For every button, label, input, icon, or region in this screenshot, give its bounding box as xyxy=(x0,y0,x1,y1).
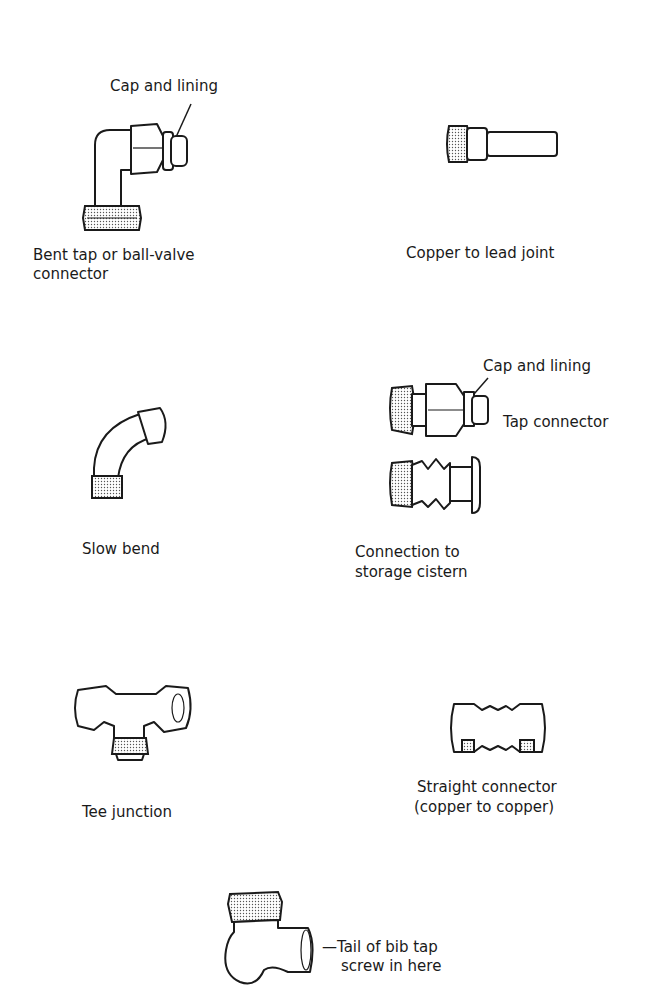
label-tap-connector: Tap connector xyxy=(503,413,608,432)
label-bent-tap-line1: Bent tap or ball-valve xyxy=(33,246,195,265)
label-bib-tap-line1: —Tail of bib tap xyxy=(322,938,438,957)
tap-connector-illustration xyxy=(388,378,498,448)
label-cistern-line2: storage cistern xyxy=(355,563,468,582)
copper-to-lead-joint-illustration xyxy=(445,122,560,167)
label-straight-line2: (copper to copper) xyxy=(414,798,554,817)
callout-cap-and-lining-2: Cap and lining xyxy=(483,357,591,376)
callout-cap-and-lining-1: Cap and lining xyxy=(110,77,218,96)
label-bent-tap-line2: connector xyxy=(33,265,108,284)
storage-cistern-connection-illustration xyxy=(388,455,488,515)
label-bib-tap-line2: screw in here xyxy=(341,957,441,976)
bent-tap-connector-illustration xyxy=(75,100,205,230)
straight-connector-illustration xyxy=(448,700,548,760)
label-cistern-line1: Connection to xyxy=(355,543,460,562)
bib-tap-elbow-illustration xyxy=(218,888,318,988)
label-copper-to-lead: Copper to lead joint xyxy=(406,244,554,263)
slow-bend-illustration xyxy=(88,408,178,503)
tee-junction-illustration xyxy=(72,680,192,765)
label-slow-bend: Slow bend xyxy=(82,540,160,559)
label-tee-junction: Tee junction xyxy=(82,803,172,822)
label-straight-line1: Straight connector xyxy=(417,778,557,797)
